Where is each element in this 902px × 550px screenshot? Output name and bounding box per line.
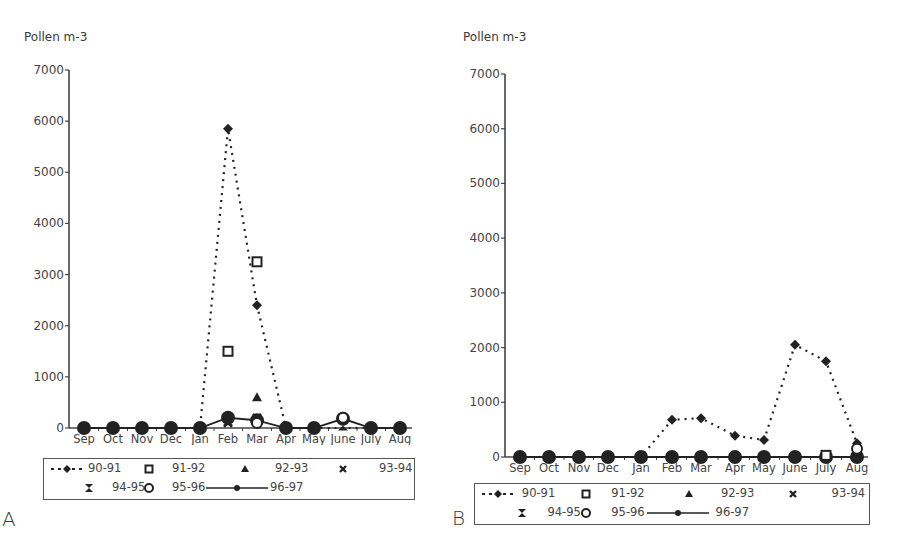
y-tick-label: 3000 — [469, 286, 500, 300]
axes: 01000200030004000500060007000SepOctNovDe… — [33, 63, 412, 445]
diamond-marker — [759, 435, 769, 445]
diamond-marker — [667, 415, 677, 425]
dot-marker — [364, 421, 378, 435]
dot-marker — [665, 450, 679, 464]
diamond-marker — [696, 413, 706, 423]
hourglass-marker — [85, 484, 93, 492]
circle-marker — [145, 484, 153, 492]
square-marker — [224, 347, 233, 356]
legend-item-label: 93-94 — [379, 461, 412, 475]
circle-marker — [582, 509, 590, 517]
diamond-marker — [223, 124, 233, 134]
legend-symbol-icon — [142, 481, 156, 495]
legend-item-label: 92-93 — [275, 461, 308, 475]
panel-label: B — [452, 506, 465, 530]
dot-marker — [757, 450, 771, 464]
chart-panel-a: Pollen m-3 01000200030004000500060007000… — [0, 0, 450, 550]
legend-symbol-icon — [481, 487, 515, 501]
dot-marker — [728, 450, 742, 464]
dot-marker — [279, 421, 293, 435]
y-tick-label: 4000 — [33, 216, 64, 230]
x-tick-label: June — [329, 432, 355, 445]
x-tick-label: Feb — [218, 432, 238, 445]
diamond-marker — [730, 431, 740, 441]
legend-symbol-icon — [238, 462, 252, 476]
dot-marker — [106, 421, 120, 435]
dot-marker — [307, 421, 321, 435]
legend-symbol-icon — [142, 462, 156, 476]
dot-marker — [788, 450, 802, 464]
legend-symbol-icon — [786, 487, 800, 501]
series-markers — [513, 340, 864, 464]
y-tick-label: 2000 — [33, 319, 64, 333]
legend-item-label: 91-92 — [611, 486, 644, 500]
square-marker — [822, 451, 831, 460]
circle-marker — [338, 413, 348, 423]
legend-item-label: 92-93 — [721, 486, 754, 500]
series-line-90-91 — [84, 129, 400, 428]
legend-item-label: 91-92 — [172, 461, 205, 475]
x-tick-label: Mar — [246, 432, 268, 445]
legend-symbol-icon — [50, 462, 84, 476]
legend-symbol-icon — [647, 506, 709, 520]
diamond-marker — [252, 300, 262, 310]
legend-item-label: 96-97 — [270, 480, 303, 494]
legend-symbol-icon — [206, 481, 268, 495]
dot-marker — [193, 421, 207, 435]
dot-marker — [77, 421, 91, 435]
triangle-marker — [252, 392, 262, 401]
y-tick-label: 0 — [56, 421, 64, 435]
legend-symbol-icon — [579, 506, 593, 520]
square-marker — [253, 257, 262, 266]
triangle-marker — [685, 490, 693, 497]
legend-item-label: 96-97 — [716, 505, 749, 519]
y-tick-label: 1000 — [33, 370, 64, 384]
series-lines — [520, 345, 857, 457]
y-tick-label: 3000 — [33, 268, 64, 282]
series-markers — [77, 124, 407, 435]
y-tick-label: 6000 — [469, 122, 500, 136]
dot-marker — [393, 421, 407, 435]
legend: 90-9191-9292-9393-9494-9595-9696-97 — [43, 458, 415, 500]
x-marker — [790, 491, 796, 497]
plot-area: 01000200030004000500060007000SepOctNovDe… — [0, 0, 450, 445]
hourglass-marker — [518, 509, 526, 517]
dot-marker — [572, 450, 586, 464]
legend-item-label: 93-94 — [832, 486, 865, 500]
y-tick-label: 2000 — [469, 341, 500, 355]
dot-marker — [135, 421, 149, 435]
square-marker — [146, 466, 153, 473]
diamond-marker — [790, 340, 800, 350]
dot-marker — [601, 450, 615, 464]
legend-item-label: 90-91 — [88, 461, 121, 475]
legend-item-label: 94-95 — [112, 480, 145, 494]
legend-symbol-icon — [682, 487, 696, 501]
legend-symbol-icon — [515, 506, 529, 520]
y-tick-label: 4000 — [469, 231, 500, 245]
series-lines — [84, 129, 400, 428]
dot-marker — [164, 421, 178, 435]
legend-symbol-icon — [336, 462, 350, 476]
triangle-marker — [241, 465, 249, 472]
dot-marker — [513, 450, 527, 464]
y-tick-label: 0 — [492, 450, 500, 464]
y-tick-label: 5000 — [33, 165, 64, 179]
square-marker — [583, 491, 590, 498]
circle-marker — [852, 444, 862, 454]
diamond-marker — [821, 356, 831, 366]
legend-item-label: 94-95 — [547, 505, 580, 519]
panel-label: A — [2, 507, 16, 531]
y-tick-label: 7000 — [33, 63, 64, 77]
legend-item-label: 90-91 — [522, 486, 555, 500]
y-tick-label: 1000 — [469, 395, 500, 409]
chart-panel-b: Pollen m-3 01000200030004000500060007000… — [450, 0, 902, 550]
legend: 90-9191-9292-9393-9494-9595-9696-97 — [474, 483, 870, 525]
series-line-96-97 — [84, 418, 400, 428]
legend-symbol-icon — [579, 487, 593, 501]
legend-symbol-icon — [82, 481, 96, 495]
plot-area: 01000200030004000500060007000SepOctNovDe… — [450, 0, 902, 475]
y-tick-label: 5000 — [469, 176, 500, 190]
legend-item-label: 95-96 — [611, 505, 644, 519]
x-marker — [340, 466, 346, 472]
dot-marker — [634, 450, 648, 464]
